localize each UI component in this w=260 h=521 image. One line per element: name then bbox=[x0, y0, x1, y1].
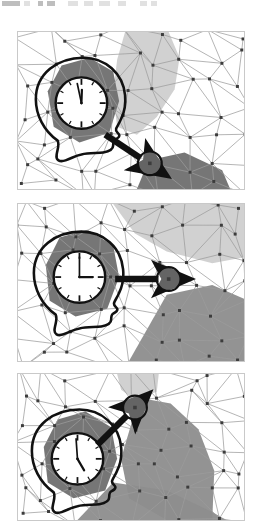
mesh-node bbox=[63, 379, 66, 382]
toolbar-smudge-3 bbox=[47, 1, 55, 6]
mesh-node bbox=[243, 395, 244, 398]
mesh-node bbox=[240, 49, 243, 52]
mesh-node bbox=[21, 424, 24, 427]
mesh-node bbox=[206, 402, 209, 405]
mesh-node bbox=[185, 261, 188, 264]
mesh-node bbox=[139, 52, 142, 55]
mesh-node bbox=[218, 517, 221, 520]
toolbar-remnant bbox=[0, 0, 260, 12]
toolbar-smudge-6 bbox=[99, 1, 110, 6]
mesh-node bbox=[223, 451, 226, 454]
mesh-node bbox=[134, 429, 137, 432]
mesh-node bbox=[206, 374, 209, 377]
mesh-node bbox=[125, 133, 128, 136]
mesh-node bbox=[94, 400, 97, 403]
mesh-node bbox=[123, 228, 126, 231]
mesh-node bbox=[150, 234, 153, 237]
toolbar-smudge-9 bbox=[151, 1, 157, 6]
mesh-node bbox=[208, 355, 211, 358]
toolbar-smudge-7 bbox=[118, 1, 126, 6]
mesh-node bbox=[20, 252, 23, 255]
mesh-node bbox=[99, 33, 102, 36]
mesh-node bbox=[217, 204, 220, 207]
mesh-node bbox=[26, 84, 29, 87]
mesh-node bbox=[52, 342, 55, 345]
mesh-node bbox=[128, 183, 131, 186]
mesh-node bbox=[80, 170, 83, 173]
mesh-node bbox=[177, 518, 180, 520]
mesh-node bbox=[129, 284, 132, 287]
focus-node-dot bbox=[148, 162, 152, 166]
mesh-node bbox=[243, 279, 244, 282]
mesh-node bbox=[133, 210, 136, 213]
mesh-node bbox=[181, 224, 184, 227]
mesh-node bbox=[189, 136, 192, 139]
panel-2-canvas bbox=[18, 204, 244, 361]
mesh-node bbox=[237, 207, 240, 210]
mesh-node bbox=[40, 304, 43, 307]
panel-1-canvas bbox=[18, 32, 244, 189]
mesh-node bbox=[94, 170, 97, 173]
clock-center-pin bbox=[78, 276, 81, 279]
focus-node-dot bbox=[133, 406, 137, 410]
mesh-node bbox=[99, 519, 102, 520]
clock bbox=[56, 77, 108, 128]
mesh-node bbox=[222, 469, 225, 472]
toolbar-smudge-4 bbox=[68, 1, 78, 6]
mesh-node bbox=[196, 379, 199, 382]
mesh-node bbox=[153, 462, 156, 465]
mesh-node bbox=[242, 37, 244, 40]
figure-panel-1 bbox=[17, 31, 245, 190]
toolbar-smudge-0 bbox=[2, 1, 20, 6]
mesh-node bbox=[39, 499, 42, 502]
mesh-node bbox=[161, 205, 164, 208]
clock bbox=[52, 433, 104, 484]
mesh-node bbox=[24, 118, 27, 121]
mesh-node bbox=[22, 512, 25, 515]
mesh-node bbox=[158, 261, 161, 264]
mesh-node bbox=[161, 33, 164, 36]
figure-panel-3 bbox=[17, 373, 245, 521]
mesh-edge bbox=[217, 134, 244, 135]
mesh-node bbox=[208, 77, 211, 80]
mesh-node bbox=[192, 78, 195, 81]
mesh-node bbox=[195, 284, 198, 287]
mesh-node bbox=[64, 405, 67, 408]
mesh-node bbox=[47, 510, 50, 513]
mesh-node bbox=[150, 284, 153, 287]
mesh-node bbox=[26, 163, 29, 166]
mesh-node bbox=[45, 225, 48, 228]
mesh-node bbox=[137, 462, 140, 465]
mesh-node bbox=[178, 339, 181, 342]
mesh-node bbox=[151, 64, 154, 67]
toolbar-smudge-1 bbox=[24, 1, 30, 6]
mesh-node bbox=[153, 126, 156, 129]
mesh-node bbox=[36, 399, 39, 402]
mesh-node bbox=[20, 474, 23, 477]
mesh-node bbox=[36, 157, 39, 160]
mesh-node bbox=[161, 341, 164, 344]
mesh-node bbox=[123, 306, 126, 309]
mesh-node bbox=[220, 339, 223, 342]
mesh-node bbox=[65, 351, 68, 354]
mesh-node bbox=[209, 315, 212, 318]
mesh-node bbox=[176, 475, 179, 478]
mesh-node bbox=[220, 62, 223, 65]
toolbar-smudge-5 bbox=[84, 1, 93, 6]
mesh-node bbox=[93, 337, 96, 340]
mesh-node bbox=[237, 486, 240, 489]
mesh-node bbox=[123, 324, 126, 327]
mesh-node bbox=[237, 473, 240, 476]
mesh-node bbox=[236, 359, 239, 361]
mesh-node bbox=[150, 87, 153, 90]
toolbar-smudge-8 bbox=[140, 1, 147, 6]
clock-center-pin bbox=[80, 102, 83, 105]
mesh-node bbox=[161, 111, 164, 114]
mesh-node bbox=[63, 40, 66, 43]
clock-center-pin bbox=[76, 458, 79, 461]
mesh-node bbox=[127, 89, 130, 92]
focus-node-dot bbox=[167, 277, 171, 281]
mesh-node bbox=[155, 397, 158, 400]
mesh-node bbox=[43, 143, 46, 146]
mesh-node bbox=[218, 253, 221, 256]
